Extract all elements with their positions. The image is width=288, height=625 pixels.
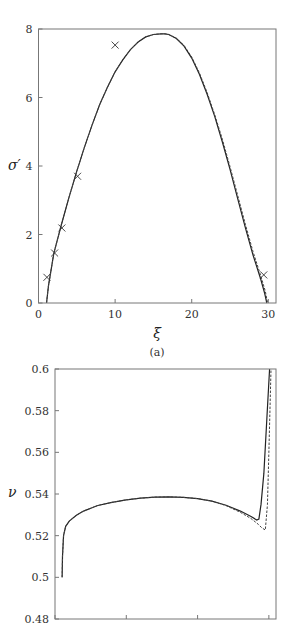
series-line-dashed <box>47 34 268 303</box>
y-tick-label: 0.52 <box>25 530 50 543</box>
x-tick-label: 10 <box>108 308 122 321</box>
chart-a-ylabel: σ′ <box>8 157 22 173</box>
y-tick-label: 4 <box>26 160 33 173</box>
y-tick-label: 0.6 <box>32 363 50 376</box>
x-tick-label: 30 <box>261 308 275 321</box>
series-line-solid <box>47 34 267 303</box>
figure: 010203002468 σ′ ξ (a) 0.480.50.520.540.5… <box>0 0 288 625</box>
y-tick-label: 0 <box>26 297 33 310</box>
y-tick-label: 0.56 <box>25 446 50 459</box>
y-tick-label: 2 <box>26 229 33 242</box>
chart-b-plot-frame <box>55 369 276 619</box>
cross-marker-icon <box>58 224 65 231</box>
y-tick-label: 8 <box>26 23 33 36</box>
y-tick-label: 0.5 <box>32 571 50 584</box>
chart-a-ticks: 010203002468 <box>26 23 276 321</box>
series-line-solid <box>62 369 269 577</box>
chart-nu-vs-xi: 0.480.50.520.540.560.580.6 ν <box>8 363 276 625</box>
x-tick-label: 20 <box>185 308 199 321</box>
y-tick-label: 0.54 <box>25 488 50 501</box>
chart-a-series <box>43 34 267 303</box>
chart-sigma-vs-xi: 010203002468 σ′ ξ (a) <box>8 23 276 359</box>
chart-b-series <box>62 369 271 577</box>
y-tick-label: 0.48 <box>25 613 50 625</box>
cross-marker-icon <box>112 42 119 49</box>
chart-a-xlabel: ξ <box>153 325 162 341</box>
panel-caption: (a) <box>149 346 164 359</box>
y-tick-label: 0.58 <box>25 405 50 418</box>
y-tick-label: 6 <box>26 92 33 105</box>
chart-a-plot-frame <box>39 29 277 303</box>
chart-b-ylabel: ν <box>8 484 17 500</box>
series-line-dashed <box>62 369 271 577</box>
x-tick-label: 0 <box>35 308 42 321</box>
cross-marker-icon <box>260 271 267 278</box>
chart-b-ticks: 0.480.50.520.540.560.580.6 <box>25 363 269 625</box>
